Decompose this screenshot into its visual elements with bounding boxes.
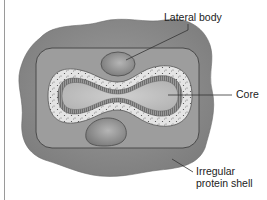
label-core: Core [236,89,259,100]
lateral-body-top [101,52,135,76]
label-lateral-body: Lateral body [164,12,222,23]
label-shell-line2: protein shell [196,178,253,189]
label-shell-line1: Irregular [196,166,235,177]
